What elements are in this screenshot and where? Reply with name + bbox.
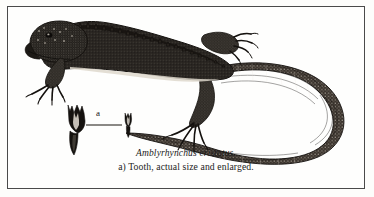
illustration-plate: a Amblyrhynchus cristatus. a) Tooth, act… [0,0,374,197]
front-foot [26,58,65,105]
iguana-head [25,21,87,62]
caption-species-name: Amblyrhynchus cristatus. [8,148,364,160]
figure-caption: Amblyrhynchus cristatus. a) Tooth, actua… [8,148,364,172]
callout-label-a: a [96,108,100,118]
caption-note: a) Tooth, actual size and enlarged. [8,161,364,173]
